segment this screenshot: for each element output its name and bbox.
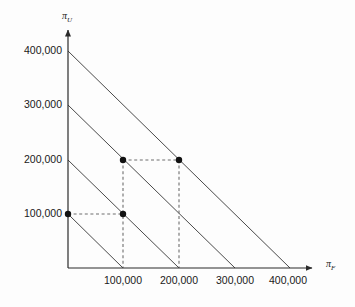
point-100000-100000: [120, 211, 126, 217]
point-0-100000: [65, 211, 71, 217]
y-axis-title-subscript: U: [67, 16, 72, 24]
chart-figure: 400,000 300,000 200,000 100,000 100,000 …: [0, 0, 355, 307]
x-axis-title: πF: [326, 258, 335, 272]
axes-group: [68, 30, 312, 268]
isoprofit-line-100000: [68, 214, 123, 268]
x-tick-label-100000: 100,000: [96, 274, 150, 286]
y-axis-title: πU: [62, 10, 72, 24]
isoprofit-line-300000: [68, 105, 235, 268]
point-100000-200000: [120, 157, 126, 163]
y-tick-label-100000: 100,000: [8, 207, 62, 219]
y-tick-label-300000: 300,000: [8, 98, 62, 110]
y-tick-label-200000: 200,000: [8, 153, 62, 165]
y-tick-label-400000: 400,000: [8, 44, 62, 56]
x-axis-title-subscript: F: [331, 264, 335, 272]
x-tick-label-200000: 200,000: [152, 274, 206, 286]
x-tick-label-300000: 300,000: [208, 274, 262, 286]
point-200000-200000: [176, 157, 182, 163]
x-tick-label-400000: 400,000: [261, 274, 315, 286]
